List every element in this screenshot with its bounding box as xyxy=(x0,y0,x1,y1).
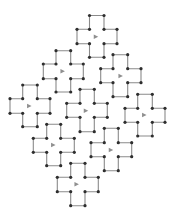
plus-shape-1 xyxy=(75,14,118,59)
vertex-dot xyxy=(136,134,139,137)
vertex-dot xyxy=(136,107,139,110)
triangle-marker-icon xyxy=(142,113,147,118)
vertex-dot xyxy=(93,102,96,105)
vertex-dot xyxy=(48,97,51,100)
vertex-dot xyxy=(54,77,57,80)
vertex-dot xyxy=(69,190,72,193)
vertex-dot xyxy=(56,190,59,193)
vertex-dot xyxy=(136,93,139,96)
triangle-marker-icon xyxy=(118,74,123,79)
vertex-dot xyxy=(32,151,35,154)
vertex-dot xyxy=(163,121,166,124)
vertex-dot xyxy=(45,164,48,167)
vertex-dot xyxy=(42,62,45,65)
vertex-dot xyxy=(69,176,72,179)
vertex-dot xyxy=(36,83,39,86)
vertex-dot xyxy=(78,116,81,119)
vertex-dot xyxy=(102,56,105,59)
vertex-dot xyxy=(88,14,91,17)
vertex-dot xyxy=(151,134,154,137)
vertex-dot xyxy=(130,155,133,158)
vertex-dot xyxy=(103,127,106,130)
vertex-dot xyxy=(21,83,24,86)
vertex-dot xyxy=(45,151,48,154)
vertex-dot xyxy=(78,88,81,91)
vertex-dot xyxy=(69,62,72,65)
plus-shape-2 xyxy=(42,49,85,93)
vertex-dot xyxy=(163,107,166,110)
vertex-dot xyxy=(136,121,139,124)
plus-shape-5 xyxy=(65,88,109,134)
vertex-dot xyxy=(69,77,72,80)
vertex-dot xyxy=(54,62,57,65)
vertex-dot xyxy=(73,151,76,154)
vertex-dot xyxy=(126,95,129,98)
vertex-dot xyxy=(93,116,96,119)
vertex-dot xyxy=(111,67,114,70)
vertex-dot xyxy=(99,81,102,84)
vertex-dot xyxy=(126,81,129,84)
vertex-dot xyxy=(69,162,72,165)
vertex-dot xyxy=(130,141,133,144)
vertex-dot xyxy=(54,90,57,93)
vertex-dot xyxy=(88,56,91,59)
vertex-dot xyxy=(45,123,48,126)
vertex-dot xyxy=(65,102,68,105)
vertex-dot xyxy=(106,102,109,105)
vertex-dot xyxy=(83,162,86,165)
cross-lattice-diagram xyxy=(0,0,181,218)
cross-group xyxy=(8,14,166,207)
triangle-marker-icon xyxy=(109,148,114,153)
triangle-marker-icon xyxy=(84,108,89,113)
plus-shape-6 xyxy=(123,93,166,138)
vertex-dot xyxy=(117,155,120,158)
vertex-dot xyxy=(59,137,62,140)
plus-shape-8 xyxy=(89,127,133,173)
vertex-dot xyxy=(69,90,72,93)
vertex-dot xyxy=(56,176,59,179)
vertex-dot xyxy=(21,125,24,128)
vertex-dot xyxy=(93,130,96,133)
vertex-dot xyxy=(69,49,72,52)
vertex-dot xyxy=(36,125,39,128)
vertex-dot xyxy=(75,28,78,31)
vertex-dot xyxy=(103,141,106,144)
vertex-dot xyxy=(151,93,154,96)
vertex-dot xyxy=(32,137,35,140)
vertex-dot xyxy=(117,127,120,130)
plus-shape-3 xyxy=(99,53,142,98)
vertex-dot xyxy=(126,53,129,56)
vertex-dot xyxy=(103,169,106,172)
vertex-dot xyxy=(78,130,81,133)
vertex-dot xyxy=(115,28,118,31)
vertex-dot xyxy=(89,141,92,144)
vertex-dot xyxy=(78,102,81,105)
vertex-dot xyxy=(123,121,126,124)
vertex-dot xyxy=(83,190,86,193)
vertex-dot xyxy=(117,141,120,144)
vertex-dot xyxy=(97,176,100,179)
vertex-dot xyxy=(117,169,120,172)
vertex-dot xyxy=(106,116,109,119)
vertex-dot xyxy=(111,53,114,56)
vertex-dot xyxy=(36,97,39,100)
vertex-dot xyxy=(123,107,126,110)
plus-shape-7 xyxy=(32,123,76,168)
vertex-dot xyxy=(54,49,57,52)
vertex-dot xyxy=(88,28,91,31)
vertex-dot xyxy=(82,62,85,65)
triangle-marker-icon xyxy=(74,182,79,187)
vertex-dot xyxy=(115,42,118,45)
vertex-dot xyxy=(103,155,106,158)
vertex-dot xyxy=(151,121,154,124)
vertex-dot xyxy=(8,112,11,115)
vertex-dot xyxy=(93,88,96,91)
vertex-dot xyxy=(99,67,102,70)
vertex-dot xyxy=(102,28,105,31)
vertex-dot xyxy=(97,190,100,193)
vertex-dot xyxy=(111,81,114,84)
vertex-dot xyxy=(151,107,154,110)
vertex-dot xyxy=(126,67,129,70)
vertex-dot xyxy=(102,42,105,45)
vertex-dot xyxy=(59,123,62,126)
